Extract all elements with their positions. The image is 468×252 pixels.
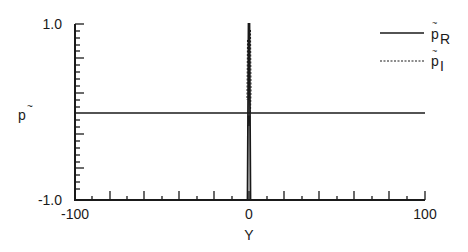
legend-label-pR-sub: R [440,31,450,47]
x-tick-label-left: -100 [61,206,89,222]
legend-label-pI-accent: ~ [432,46,437,56]
series-pR [75,24,425,200]
legend-label-pR: p [431,26,439,42]
x-axis-label: Y [244,227,254,243]
y-ticks [75,24,84,189]
x-tick-label-right: 100 [413,206,437,222]
y-axis-label: p [18,107,26,123]
y-tick-label-top: 1.0 [43,16,63,32]
chart: 1.0 -1.0 -100 0 100 Y p ~ p ~ R p ~ I [0,0,468,252]
legend: p ~ R p ~ I [380,18,450,74]
y-axis-label-accent: ~ [27,101,33,112]
y-tick-label-bottom: -1.0 [38,192,62,208]
x-ticks [92,191,425,200]
legend-label-pI-sub: I [440,58,444,74]
x-tick-label-mid: 0 [245,206,253,222]
legend-label-pR-accent: ~ [432,18,437,28]
